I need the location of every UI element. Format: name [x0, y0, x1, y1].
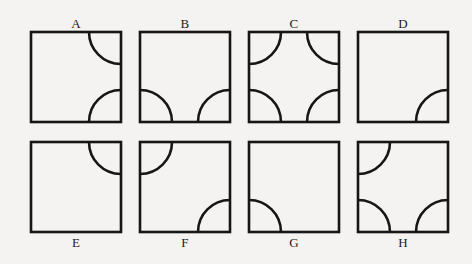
panel-graphic-f — [139, 141, 231, 233]
panel-square-outline — [358, 142, 448, 232]
panel-svg-b — [139, 31, 231, 123]
panel-square-outline — [249, 32, 339, 122]
panel-label-e: E — [30, 236, 122, 250]
panel-square-outline — [31, 142, 121, 232]
arc-top-right — [307, 32, 339, 64]
panel-graphic-h — [357, 141, 449, 233]
panel-label-a: A — [30, 17, 122, 31]
panel-svg-e — [30, 141, 122, 233]
panel-graphic-b — [139, 31, 231, 123]
arc-bottom-left — [358, 200, 390, 232]
panel-svg-a — [30, 31, 122, 123]
arc-bottom-left — [140, 90, 172, 122]
panel-square-outline — [140, 142, 230, 232]
panel-label-f: F — [139, 236, 231, 250]
arc-top-right — [89, 32, 121, 64]
panel-svg-f — [139, 141, 231, 233]
arc-top-left — [140, 142, 172, 174]
arc-bottom-left — [249, 90, 281, 122]
panel-graphic-g — [248, 141, 340, 233]
panel-h: H — [357, 141, 449, 245]
panel-graphic-d — [357, 31, 449, 123]
arc-bottom-right — [416, 90, 448, 122]
panel-c: C — [248, 17, 340, 121]
panel-a: A — [30, 17, 122, 121]
panel-label-d: D — [357, 17, 449, 31]
arc-bottom-right — [198, 200, 230, 232]
panel-square-outline — [31, 32, 121, 122]
arc-bottom-right — [416, 200, 448, 232]
panel-label-h: H — [357, 236, 449, 250]
panel-graphic-c — [248, 31, 340, 123]
panel-label-g: G — [248, 236, 340, 250]
panel-svg-g — [248, 141, 340, 233]
arc-bottom-right — [89, 90, 121, 122]
panel-svg-d — [357, 31, 449, 123]
panel-g: G — [248, 141, 340, 245]
panel-graphic-e — [30, 141, 122, 233]
arc-bottom-right — [198, 90, 230, 122]
arc-bottom-right — [307, 90, 339, 122]
panel-svg-h — [357, 141, 449, 233]
panel-d: D — [357, 17, 449, 121]
arc-bottom-left — [249, 200, 281, 232]
panel-e: E — [30, 141, 122, 245]
panel-label-c: C — [248, 17, 340, 31]
panel-b: B — [139, 17, 231, 121]
arc-panels-figure: ABCDEFGH — [0, 0, 472, 264]
panel-square-outline — [249, 142, 339, 232]
panel-f: F — [139, 141, 231, 245]
panel-graphic-a — [30, 31, 122, 123]
panel-square-outline — [358, 32, 448, 122]
arc-top-right — [89, 142, 121, 174]
panel-square-outline — [140, 32, 230, 122]
arc-top-left — [358, 142, 390, 174]
panel-svg-c — [248, 31, 340, 123]
panel-label-b: B — [139, 17, 231, 31]
arc-top-left — [249, 32, 281, 64]
